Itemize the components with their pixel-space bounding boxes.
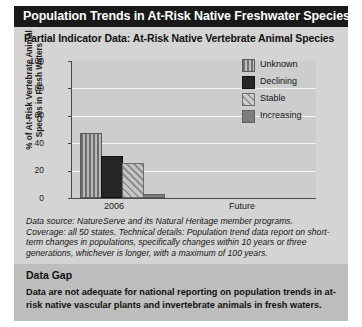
bar-2006-declining [101,156,123,198]
legend-item-stable: Stable [242,92,342,107]
gridline-40 [72,143,316,144]
figure-root: Population Trends in At-Risk Native Fres… [0,0,362,327]
data-gap-section: Data Gap Data are not adequate for natio… [14,264,348,321]
x-axis-line [71,198,316,199]
chart-legend: Unknown Declining Stable Increasing [242,58,342,126]
legend-item-declining: Declining [242,75,342,90]
legend-swatch-unknown-icon [242,59,255,72]
x-tick-2006: 2006 [84,201,144,211]
data-gap-title: Data Gap [26,269,72,281]
y-tick-80: 80 [4,84,44,92]
y-tick-100: 100 [4,57,44,65]
legend-item-increasing: Increasing [242,109,342,124]
legend-label-unknown: Unknown [260,59,298,69]
legend-label-declining: Declining [260,76,297,86]
y-axis-line [71,61,72,199]
legend-swatch-declining-icon [242,76,255,89]
y-tick-0: 0 [4,194,44,202]
chart-subtitle: Partial Indicator Data: At-Risk Native V… [24,32,340,44]
x-tick-future: Future [212,201,272,211]
legend-label-stable: Stable [260,93,286,103]
legend-swatch-stable-icon [242,93,255,106]
y-tick-40: 40 [4,139,44,147]
legend-item-unknown: Unknown [242,58,342,73]
y-tick-20: 20 [4,166,44,174]
source-note: Data source: NatureServe and its Natural… [26,216,334,258]
bar-2006-unknown [80,133,102,198]
chart-area: % of At-Risk Vertebrate Animal Species i… [14,50,348,208]
page-title: Population Trends in At-Risk Native Fres… [23,9,350,23]
bar-2006-stable [122,163,144,198]
legend-swatch-increasing-icon [242,110,255,123]
title-bar: Population Trends in At-Risk Native Fres… [14,6,348,27]
data-gap-body: Data are not adequate for national repor… [26,286,338,312]
legend-label-increasing: Increasing [260,110,302,120]
y-tick-60: 60 [4,111,44,119]
